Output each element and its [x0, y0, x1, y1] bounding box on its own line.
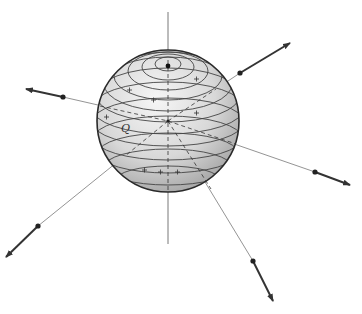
arrow-right: [315, 172, 350, 185]
arrow-lower-left: [6, 226, 38, 257]
sphere: Q: [92, 50, 244, 194]
point-label-q: Q: [121, 122, 130, 135]
sphere-diagram: Q: [0, 0, 362, 314]
north-pole-dot: [166, 64, 171, 69]
center-dot: [166, 119, 169, 122]
arrow-upper-right: [240, 43, 290, 73]
arrow-bottom: [253, 261, 273, 301]
arrow-left: [26, 89, 63, 97]
